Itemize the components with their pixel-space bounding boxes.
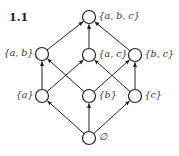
node-a	[36, 90, 49, 103]
node-c	[129, 90, 142, 103]
node-label-abc: {a, b, c}	[99, 11, 140, 21]
edge-bc-to-abc	[95, 22, 130, 51]
node-label-a: {a}	[16, 90, 34, 100]
edge-a-to-ac	[47, 60, 83, 92]
node-label-bc: {b, c}	[145, 49, 175, 59]
edge-empty-to-c	[94, 101, 130, 134]
node-label-empty: ∅	[99, 132, 107, 142]
node-label-c: {c}	[145, 90, 162, 100]
node-ab	[36, 48, 49, 61]
node-label-ab: {a, b}	[4, 48, 34, 58]
node-empty	[83, 132, 96, 145]
node-ac	[83, 49, 96, 62]
edge-ab-to-abc	[47, 22, 83, 50]
hasse-diagram	[0, 0, 179, 156]
edge-empty-to-a	[48, 101, 85, 134]
node-label-ac: {a, c}	[99, 49, 128, 59]
node-abc	[83, 11, 96, 24]
node-b	[83, 90, 96, 103]
node-bc	[129, 49, 142, 62]
node-label-b: {b}	[99, 90, 117, 100]
